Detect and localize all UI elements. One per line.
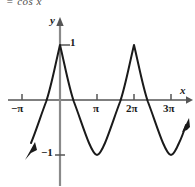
x-tick-label-pi: π: [93, 102, 99, 114]
y-tick-label-one: 1: [70, 36, 76, 48]
curve-right-arrowhead: [182, 118, 190, 132]
cosine-graph-figure: = cos x y x −π π 2π 3π 1 −1: [0, 0, 195, 187]
x-tick-label-2pi: 2π: [126, 102, 138, 114]
x-tick-label-3pi: 3π: [163, 102, 175, 114]
x-axis-label: x: [180, 84, 186, 96]
y-axis-arrowhead: [56, 17, 63, 26]
y-axis-label: y: [50, 14, 55, 26]
cosine-plot-svg: [0, 0, 195, 187]
y-tick-label-neg-one: −1: [41, 146, 53, 158]
curve-left-arrowhead: [25, 142, 37, 160]
x-tick-label-neg-pi: −π: [11, 102, 23, 114]
x-axis-arrowhead: [186, 96, 193, 104]
